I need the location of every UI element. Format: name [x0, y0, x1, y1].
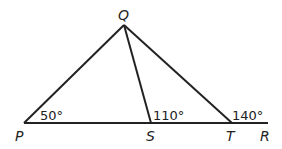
segment-qs	[124, 25, 151, 123]
point-label-q: Q	[118, 7, 129, 23]
point-label-p: P	[15, 128, 24, 144]
angle-label-t: 140°	[232, 108, 263, 123]
segment-pq	[24, 25, 124, 123]
point-label-t: T	[226, 128, 236, 144]
angle-label-p: 50°	[40, 108, 63, 123]
point-label-r: R	[260, 128, 270, 144]
triangle-diagram: Q P S T R 50° 110° 140°	[0, 0, 282, 149]
point-label-s: S	[146, 128, 155, 144]
angle-label-s: 110°	[153, 108, 184, 123]
